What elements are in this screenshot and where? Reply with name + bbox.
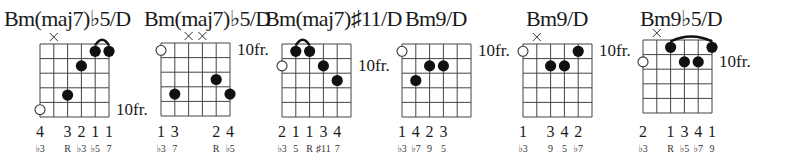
fret-position-label: 10fr. bbox=[719, 53, 751, 71]
open-note-circle-icon bbox=[638, 57, 648, 67]
finger-number: 1 bbox=[664, 124, 678, 140]
scale-degree: ♭3 bbox=[634, 143, 652, 154]
finger-dot bbox=[679, 56, 690, 67]
finger-dot bbox=[693, 56, 704, 67]
scale-degree: 9 bbox=[703, 143, 721, 154]
barre-arc bbox=[671, 37, 712, 42]
muted-string-x-icon bbox=[653, 29, 661, 37]
chord-diagram: Bm9♭5/D10fr.2♭31R3♭54♭719 bbox=[0, 0, 788, 163]
finger-number: 1 bbox=[705, 124, 719, 140]
finger-dot bbox=[706, 42, 717, 53]
finger-dot bbox=[665, 42, 676, 53]
finger-number: 4 bbox=[691, 124, 705, 140]
finger-number: 3 bbox=[677, 124, 691, 140]
finger-number: 2 bbox=[636, 124, 650, 140]
